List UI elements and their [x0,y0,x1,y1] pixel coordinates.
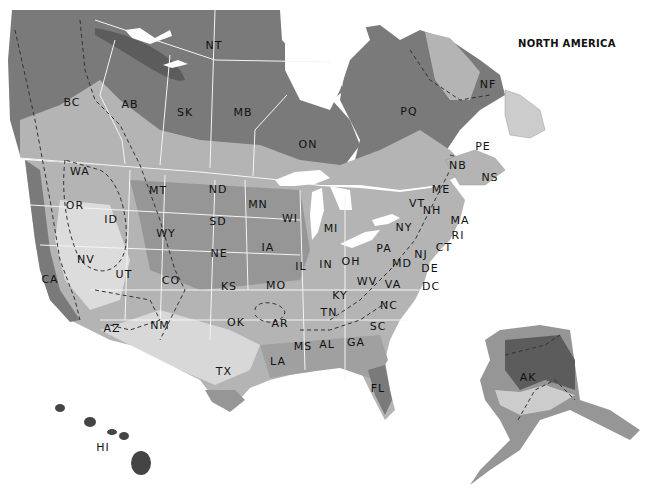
region-label-ia: IA [262,242,275,253]
region-label-ms: MS [294,341,312,352]
region-label-nf: NF [480,79,497,90]
region-label-ks: KS [221,281,237,292]
region-label-on: ON [299,139,318,150]
region-label-mn: MN [248,199,268,210]
region-label-ga: GA [347,337,365,348]
region-label-in: IN [319,259,332,270]
region-label-ky: KY [332,290,348,301]
region-label-id: ID [104,214,118,225]
region-label-wv: WV [357,276,377,287]
region-label-ri: RI [452,230,465,241]
region-label-ct: CT [436,242,452,253]
region-label-sc: SC [370,321,387,332]
region-label-co: CO [162,275,180,286]
region-label-il: IL [295,261,306,272]
region-label-wi: WI [282,213,298,224]
region-label-nc: NC [380,300,398,311]
region-label-nt: NT [206,40,223,51]
region-label-ut: UT [116,269,133,280]
region-label-tx: TX [216,366,232,377]
region-label-ne: NE [210,248,227,259]
newfoundland [505,90,545,138]
region-label-ab: AB [121,99,138,110]
region-label-ak: AK [520,372,537,383]
region-label-nj: NJ [414,249,427,260]
region-label-nv: NV [77,254,95,265]
region-label-wa: WA [70,166,90,177]
region-label-me: ME [432,184,450,195]
region-label-ar: AR [271,318,288,329]
region-label-md: MD [392,258,412,269]
region-label-fl: FL [371,383,385,394]
alaska-interior-dark [505,335,575,390]
map-title: NORTH AMERICA [518,38,616,49]
region-label-ca: CA [41,274,58,285]
north-america-map [0,0,659,502]
region-label-ma: MA [450,215,469,226]
region-label-al: AL [319,339,335,350]
region-label-wy: WY [156,228,176,239]
region-label-nb: NB [449,160,467,171]
region-label-la: LA [270,356,286,367]
region-label-nm: NM [150,320,170,331]
region-label-ny: NY [396,222,413,233]
region-label-nh: NH [423,205,442,216]
region-label-pq: PQ [400,106,417,117]
region-label-az: AZ [103,323,120,334]
region-label-dc: DC [422,281,440,292]
region-label-ok: OK [227,317,245,328]
region-label-pe: PE [475,141,491,152]
region-label-mo: MO [266,280,286,291]
hawaii-islands [55,404,151,475]
region-label-sk: SK [177,107,193,118]
region-label-pa: PA [376,243,391,254]
region-label-va: VA [385,279,401,290]
region-label-or: OR [66,200,84,211]
region-label-nd: ND [209,184,228,195]
region-label-mt: MT [149,185,167,196]
region-label-bc: BC [63,97,80,108]
region-label-hi: HI [96,442,110,453]
region-label-tn: TN [321,307,338,318]
region-label-ns: NS [481,172,498,183]
region-label-mb: MB [233,107,252,118]
region-label-oh: OH [342,256,361,267]
region-label-de: DE [421,263,438,274]
region-label-mi: MI [324,223,339,234]
region-label-sd: SD [209,216,226,227]
